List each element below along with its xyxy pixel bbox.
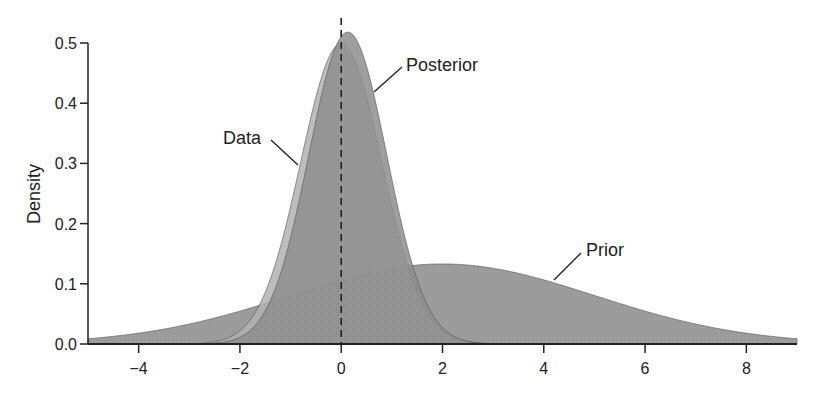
density-chart: 0.00.10.20.30.40.5−4−202468 PosteriorDat… [0,0,816,396]
x-tick-label: 6 [641,360,650,377]
svg-text:Data: Data [223,128,262,148]
y-tick-label: 0.5 [55,35,77,52]
x-tick-label: −4 [130,360,148,377]
y-tick-label: 0.3 [55,155,77,172]
prior-annotation: Prior [554,240,624,280]
svg-text:Prior: Prior [586,240,624,260]
x-tick-label: −2 [231,360,249,377]
svg-text:Posterior: Posterior [406,55,478,75]
y-axis-title: Density [24,164,44,224]
x-tick-label: 0 [337,360,346,377]
y-tick-label: 0.2 [55,216,77,233]
y-tick-label: 0.4 [55,95,77,112]
y-tick-label: 0.1 [55,276,77,293]
density-areas [88,32,797,344]
x-tick-label: 4 [539,360,548,377]
x-tick-label: 2 [438,360,447,377]
data-annotation: Data [223,128,298,165]
y-tick-label: 0.0 [55,336,77,353]
x-tick-label: 8 [742,360,751,377]
posterior-annotation: Posterior [374,55,478,92]
